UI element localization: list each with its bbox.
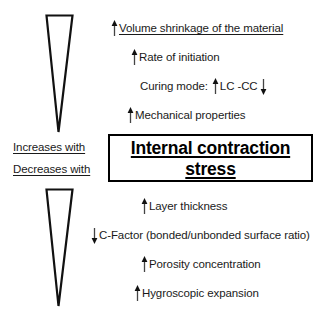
factor-label: Layer thickness (149, 200, 227, 213)
factor-label: Rate of initiation (139, 51, 220, 64)
factor-label: Porosity concentration (149, 258, 261, 271)
factor-row-volume-shrinkage: Volume shrinkage of the material (110, 20, 283, 37)
factor-row-porosity-concentration: Porosity concentration (140, 256, 261, 273)
arrow-up-icon (126, 107, 135, 124)
factor-label: Hygroscopic expansion (142, 287, 259, 300)
center-box-internal-contraction-stress: Internal contraction stress (108, 134, 313, 182)
arrow-up-icon (110, 20, 119, 37)
arrow-up-icon (133, 285, 142, 302)
arrow-up-icon (140, 198, 149, 215)
factor-row-layer-thickness: Layer thickness (140, 198, 227, 215)
factor-label: C-Factor (bonded/unbonded surface ratio) (99, 229, 310, 242)
arrow-down-icon (259, 78, 268, 95)
arrow-up-icon (211, 78, 220, 95)
lower-wedge-icon (44, 187, 76, 309)
factor-row-mechanical-properties: Mechanical properties (126, 107, 245, 124)
upper-wedge-icon (44, 13, 76, 135)
center-box-line-2: stress (185, 159, 235, 180)
arrow-up-icon (130, 49, 139, 66)
factor-label: Curing mode: (140, 80, 208, 93)
arrow-down-icon (90, 227, 99, 244)
curing-mode-value: LC -CC (220, 80, 258, 93)
factor-label: Mechanical properties (135, 109, 245, 122)
legend-increases-with: Increases with (13, 141, 85, 153)
factor-row-curing-mode: Curing mode: LC -CC (140, 78, 268, 95)
center-box-line-1: Internal contraction (131, 138, 290, 159)
diagram-canvas: Increases with Decreases with Internal c… (0, 0, 322, 322)
factor-row-rate-of-initiation: Rate of initiation (130, 49, 220, 66)
factor-row-hygroscopic-expansion: Hygroscopic expansion (133, 285, 259, 302)
legend-decreases-with: Decreases with (13, 163, 90, 175)
arrow-up-icon (140, 256, 149, 273)
factor-label: Volume shrinkage of the material (119, 22, 283, 35)
factor-row-c-factor: C-Factor (bonded/unbonded surface ratio) (90, 227, 310, 244)
